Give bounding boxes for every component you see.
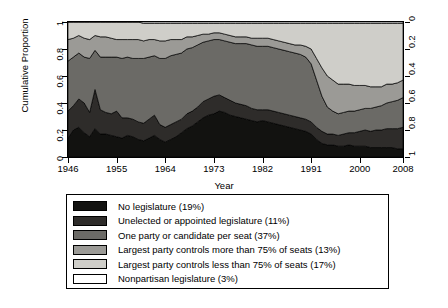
y-tickmark-right-2	[405, 76, 410, 77]
y-tick-left-4: 0.8	[55, 48, 65, 68]
x-tick-0: 1946	[57, 163, 78, 174]
x-tick-2: 1964	[155, 163, 176, 174]
legend-label-0: No legislature (19%)	[118, 202, 204, 212]
y-tick-left-5: 1	[55, 21, 65, 41]
x-tick-1: 1955	[106, 163, 127, 174]
y-tick-right-5: 1	[407, 136, 417, 156]
y-tick-right-3: 0.6	[407, 82, 417, 102]
y-tick-right-4: 0.8	[407, 109, 417, 129]
y-tickmark-right-0	[405, 22, 410, 23]
y-tickmark-right-5	[405, 157, 410, 158]
x-axis-title: Year	[0, 180, 448, 191]
legend-label-2: One party or candidate per seat (37%)	[118, 231, 280, 241]
x-tick-6: 2000	[349, 163, 370, 174]
legend-item[interactable]: One party or candidate per seat (37%)	[67, 228, 388, 243]
x-tickmark-4	[263, 158, 264, 163]
legend-swatch-3	[73, 245, 107, 255]
legend-item[interactable]: Largest party controls more than 75% of …	[67, 243, 388, 258]
legend-swatch-4	[73, 259, 107, 269]
x-tickmark-6	[360, 158, 361, 163]
x-tickmark-5	[311, 158, 312, 163]
legend-label-3: Largest party controls more than 75% of …	[118, 245, 340, 255]
legend-swatch-1	[73, 216, 107, 226]
y-tick-right-1: 0.2	[407, 28, 417, 48]
y-tick-left-3: 0.6	[55, 75, 65, 95]
legend-swatch-0	[73, 201, 107, 211]
y-tick-left-2: 0.4	[55, 102, 65, 122]
x-tickmark-1	[117, 158, 118, 163]
y-axis-title: Cumulative Proportion	[19, 6, 30, 126]
legend-swatch-5	[73, 274, 107, 284]
x-tick-5: 1991	[301, 163, 322, 174]
legend-label-1: Unelected or appointed legislature (11%)	[118, 216, 289, 226]
y-tick-left-1: 0.2	[55, 129, 65, 149]
legend-swatch-2	[73, 230, 107, 240]
x-tickmark-2	[165, 158, 166, 163]
legend-item[interactable]: No legislature (19%)	[67, 199, 388, 214]
legend-item[interactable]: Unelected or appointed legislature (11%)	[67, 214, 388, 229]
x-tick-4: 1982	[252, 163, 273, 174]
chart-legend: No legislature (19%)Unelected or appoint…	[66, 194, 389, 289]
y-tick-right-0: 0	[407, 1, 417, 21]
y-tickmark-left-0	[62, 157, 67, 158]
y-tickmark-left-2	[62, 103, 67, 104]
y-tick-right-2: 0.4	[407, 55, 417, 75]
y-tickmark-right-3	[405, 103, 410, 104]
legend-label-4: Largest party controls less than 75% of …	[118, 260, 336, 270]
y-tickmark-left-5	[62, 22, 67, 23]
chart-screenshot: Cumulative Proportion Year No legislatur…	[0, 0, 448, 308]
legend-item[interactable]: Nonpartisan legislature (3%)	[67, 272, 388, 287]
x-tick-7: 2008	[392, 163, 413, 174]
y-tickmark-right-1	[405, 49, 410, 50]
x-tickmark-3	[214, 158, 215, 163]
stacked-area-chart	[68, 22, 403, 157]
x-tickmark-0	[68, 158, 69, 163]
plot-area	[67, 21, 404, 158]
legend-label-5: Nonpartisan legislature (3%)	[118, 274, 238, 284]
y-tickmark-left-1	[62, 130, 67, 131]
y-tickmark-left-4	[62, 49, 67, 50]
legend-item[interactable]: Largest party controls less than 75% of …	[67, 257, 388, 272]
y-tickmark-left-3	[62, 76, 67, 77]
y-tickmark-right-4	[405, 130, 410, 131]
x-tick-3: 1973	[203, 163, 224, 174]
x-tickmark-7	[403, 158, 404, 163]
